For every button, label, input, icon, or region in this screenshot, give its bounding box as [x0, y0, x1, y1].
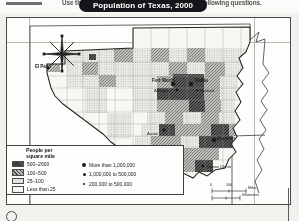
map-title-banner: Population of Texas, 2000	[79, 0, 207, 12]
map-legend: People per square mile 500–2600 100–500 …	[6, 145, 184, 195]
city-dot-austin	[162, 128, 165, 131]
legend-density-list: 500–2600 100–500 25–100 Less than 25	[12, 160, 56, 194]
legend-density-label: 25–100	[27, 178, 44, 184]
legend-city-label: 1,000,000 to 500,000	[89, 171, 136, 177]
scale-miles-label: Miles	[248, 186, 256, 190]
legend-city-label: More than 1,000,000	[89, 162, 135, 168]
legend-density-item: 500–2600	[12, 160, 56, 168]
large-city-dot-icon	[79, 163, 89, 167]
legend-city-item: 200,000 to 500,000	[79, 179, 136, 189]
medium-city-dot-icon	[79, 173, 89, 176]
city-dot-corpus-christi	[202, 165, 205, 168]
legend-density-label: Less than 25	[27, 186, 56, 192]
density-swatch-high-icon	[12, 169, 24, 176]
city-dot-houston	[212, 138, 217, 143]
legend-city-list: More than 1,000,000 1,000,000 to 500,000…	[79, 160, 136, 189]
legend-density-label: 100–500	[27, 170, 46, 176]
legend-density-label: 500–2600	[27, 161, 49, 167]
city-label-arlington: Arlington	[154, 88, 170, 93]
city-label-houston: Houston	[217, 136, 235, 141]
city-dot-arlington	[176, 89, 179, 92]
question-number-bullet	[6, 211, 17, 221]
scale-tick-zero: 0	[210, 183, 212, 187]
small-city-dot-icon	[79, 183, 89, 185]
legend-city-item: 1,000,000 to 500,000	[79, 170, 136, 180]
city-label-corpus-christi: Corpus Christi	[206, 164, 231, 169]
density-swatch-medium-icon	[12, 178, 24, 185]
worksheet-page: Use the population map of Texas to answe…	[0, 0, 299, 221]
legend-density-item: 25–100	[12, 177, 56, 185]
scale-tick-mid: 100	[226, 183, 232, 187]
legend-density-item: 100–500	[12, 168, 56, 176]
city-dot-dallas	[189, 82, 193, 86]
city-label-dallas: Dallas	[195, 78, 208, 83]
city-dot-garland	[196, 89, 198, 91]
page-right-rule	[288, 188, 289, 221]
density-swatch-low-icon	[12, 186, 24, 193]
city-label-fort-worth: Fort Worth	[152, 78, 174, 83]
legend-density-title: People per square mile	[26, 148, 55, 159]
map-title: Population of Texas, 2000	[93, 1, 193, 10]
legend-city-item: More than 1,000,000	[79, 160, 136, 170]
legend-density-title-line2: square mile	[26, 154, 55, 160]
city-label-garland: Garland	[200, 88, 214, 93]
scale-kilometers-label: Kilometers	[242, 193, 259, 197]
instruction-rule	[6, 2, 42, 5]
city-label-austin: Austin	[147, 131, 158, 136]
density-swatch-very-high-icon	[12, 161, 24, 168]
city-label-el-paso: El Paso	[35, 64, 51, 69]
map-scale-bar: Miles Kilometers 0 100	[210, 186, 270, 204]
legend-density-item: Less than 25	[12, 185, 56, 193]
legend-city-label: 200,000 to 500,000	[89, 181, 132, 187]
